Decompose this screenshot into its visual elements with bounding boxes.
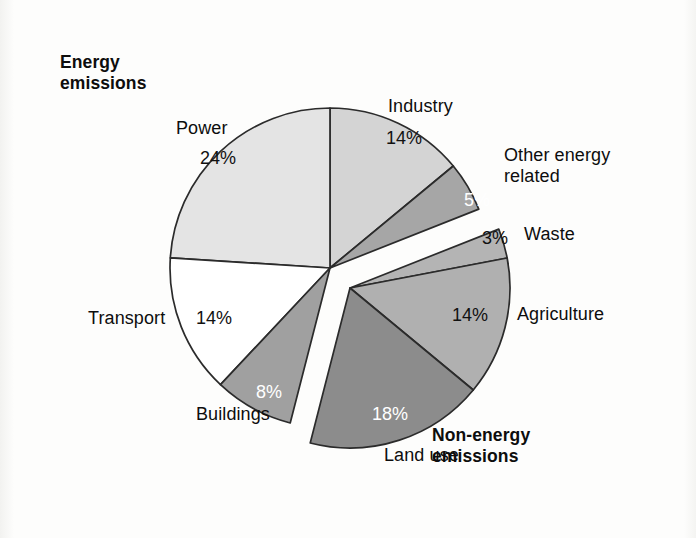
pie-chart-figure: Energy emissions Non-energy emissions In… <box>0 0 696 538</box>
label-land-use: Land use <box>384 445 459 466</box>
group-title-energy-line2: emissions <box>60 73 147 94</box>
group-title-energy: Energy emissions <box>60 52 147 93</box>
value-agriculture: 14% <box>452 305 488 326</box>
value-waste: 3% <box>482 228 508 249</box>
label-industry: Industry <box>388 96 453 117</box>
value-industry: 14% <box>386 128 422 149</box>
group-title-non-energy-line1: Non-energy <box>432 425 530 446</box>
label-agriculture: Agriculture <box>517 304 604 325</box>
value-power: 24% <box>200 148 236 169</box>
label-waste: Waste <box>524 224 575 245</box>
label-other-energy-related-line1: Other energy <box>504 145 610 166</box>
value-other-energy-related: 5% <box>464 190 490 211</box>
label-power: Power <box>176 118 228 139</box>
label-buildings: Buildings <box>196 404 270 425</box>
label-other-energy-related-line2: related <box>504 166 610 187</box>
value-transport: 14% <box>196 308 232 329</box>
label-transport: Transport <box>88 308 165 329</box>
label-other-energy-related: Other energy related <box>504 145 610 187</box>
value-buildings: 8% <box>256 382 282 403</box>
group-title-energy-line1: Energy <box>60 52 147 73</box>
value-land-use: 18% <box>372 404 408 425</box>
